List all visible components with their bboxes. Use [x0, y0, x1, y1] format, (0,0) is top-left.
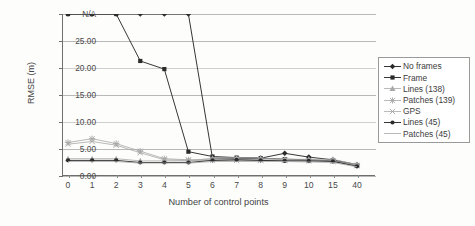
legend-item-gps[interactable]: GPS: [381, 106, 467, 117]
legend-item-label: Frame: [402, 74, 427, 82]
x-axis-tick-label: 4: [151, 181, 177, 190]
y-axis-tick-label: 0.00: [80, 172, 96, 180]
series-patches-139: [65, 136, 360, 169]
data-point-diamond: [186, 14, 192, 17]
x-axis-tick-label: 10: [296, 181, 322, 190]
legend-marker-circle-icon: [383, 117, 402, 128]
legend-item-label: Lines (138): [402, 85, 445, 93]
x-axis-tick-label: 5: [175, 181, 201, 190]
legend-marker-none-icon: [383, 128, 402, 139]
legend-item-patches-139[interactable]: Patches (139): [381, 95, 467, 106]
legend-item-label: No frames: [402, 62, 442, 70]
x-axis-tick-label: 40: [344, 181, 370, 190]
y-axis-tick-label: 10.00: [75, 118, 96, 126]
legend-marker-square-icon: [383, 72, 402, 83]
series-line: [68, 14, 357, 165]
data-point-square: [390, 76, 394, 80]
chart-figure: RMSE (m) Number of control points No fra…: [0, 0, 475, 226]
data-point-circle: [162, 160, 166, 164]
legend-item-frame[interactable]: Frame: [381, 72, 467, 83]
x-axis-tick-label: 0: [55, 181, 81, 190]
data-point-square: [138, 59, 142, 63]
x-axis-tick-label: 7: [224, 181, 250, 190]
gridline: [63, 176, 376, 177]
legend-item-label: Lines (45): [402, 118, 440, 126]
data-point-square: [114, 14, 118, 16]
data-point-circle: [390, 120, 394, 124]
legend-marker-cross-icon: [383, 106, 402, 117]
legend-item-label: Patches (45): [402, 130, 450, 138]
data-layer: [62, 14, 375, 176]
data-point-square: [66, 14, 70, 16]
data-point-diamond: [137, 14, 143, 17]
data-point-diamond: [390, 64, 396, 70]
data-point-circle: [186, 160, 190, 164]
x-axis-tick-label: 2: [103, 181, 129, 190]
legend-item-label: Patches (139): [402, 96, 455, 104]
y-axis-tick-label: 25.00: [75, 37, 96, 45]
x-axis-tick-label: 9: [272, 181, 298, 190]
data-point-diamond: [162, 14, 168, 17]
chart-legend: No framesFrameLines (138)Patches (139)GP…: [378, 57, 470, 143]
x-axis-tick-label: 3: [127, 181, 153, 190]
legend-item-no-frames[interactable]: No frames: [381, 61, 467, 72]
legend-item-lines-138[interactable]: Lines (138): [381, 83, 467, 94]
data-point-square: [162, 67, 166, 71]
x-axis-title: Number of control points: [62, 197, 375, 207]
y-axis-title: RMSE (m): [26, 38, 36, 128]
data-point-circle: [283, 159, 287, 163]
y-axis-tick-label: 5.00: [80, 145, 96, 153]
data-point-diamond: [282, 150, 288, 156]
legend-marker-star-icon: [383, 95, 402, 106]
y-axis-tick-label: 15.00: [75, 91, 96, 99]
legend-marker-diamond-icon: [383, 61, 402, 72]
x-axis-tick-label: 1: [79, 181, 105, 190]
x-axis-tick-label: 15: [320, 181, 346, 190]
y-axis-tick-label: N/A: [82, 10, 96, 18]
legend-marker-triangle-icon: [383, 83, 402, 94]
legend-item-lines-45[interactable]: Lines (45): [381, 117, 467, 128]
data-point-circle: [138, 160, 142, 164]
legend-item-patches-45[interactable]: Patches (45): [381, 128, 467, 139]
x-axis-tick-label: 8: [248, 181, 274, 190]
data-point-square: [186, 150, 190, 154]
x-axis-tick-label: 6: [200, 181, 226, 190]
y-tick-mark: [59, 176, 63, 177]
series-gps: [65, 139, 359, 169]
legend-item-label: GPS: [402, 107, 421, 115]
y-axis-tick-label: 20.00: [75, 64, 96, 72]
data-point-star: [389, 97, 395, 103]
